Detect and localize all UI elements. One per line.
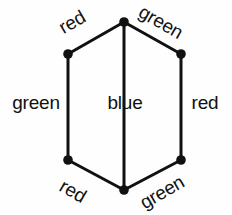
vertex-lower-left: [63, 155, 73, 165]
vertex-top: [119, 17, 129, 27]
edge-label-left: green: [12, 93, 60, 112]
edge-label-right: red: [192, 93, 219, 112]
vertex-upper-left: [63, 49, 73, 59]
vertex-bottom: [119, 185, 129, 195]
hexagon-edge-coloring-figure: red green green blue red red green: [0, 0, 232, 215]
edge-label-center: blue: [107, 93, 142, 112]
vertex-lower-right: [176, 155, 186, 165]
vertex-upper-right: [176, 49, 186, 59]
